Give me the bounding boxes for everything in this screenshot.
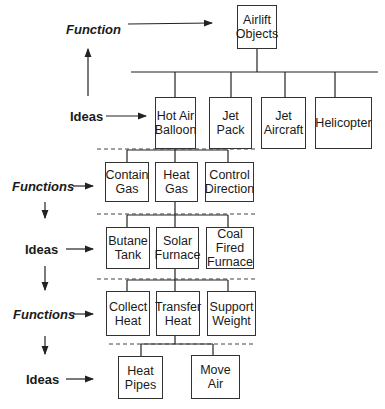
node-transfer-heat: Transfer Heat [156,291,200,336]
level-label-ideas: Ideas [25,242,58,257]
level-label-functions: Functions [12,179,74,194]
node-coal-fired-furnace: Coal Fired Furnace [206,227,254,269]
node-move-air: Move Air [191,355,240,399]
node-helicopter: Helicopter [315,97,372,149]
node-butane-tank: Butane Tank [106,227,150,269]
node-airlift-objects: Airlift Objects [237,5,277,49]
node-solar-furnace: Solar Furnace [156,227,199,269]
node-jet-pack: Jet Pack [209,97,252,149]
level-label-function: Function [66,22,121,37]
node-heat-gas: Heat Gas [155,162,198,202]
level-label-ideas: Ideas [70,109,103,124]
level-label-functions: Functions [13,307,75,322]
node-control-direction: Control Direction [205,162,254,202]
node-heat-pipes: Heat Pipes [118,356,163,399]
node-collect-heat: Collect Heat [106,291,150,336]
level-label-ideas: Ideas [26,372,59,387]
node-jet-aircraft: Jet Aircraft [261,97,306,149]
node-hot-air-balloon: Hot Air Balloon [155,97,196,149]
connector-lines [0,0,385,409]
node-support-weight: Support Weight [207,291,256,336]
node-contain-gas: Contain Gas [105,162,149,202]
